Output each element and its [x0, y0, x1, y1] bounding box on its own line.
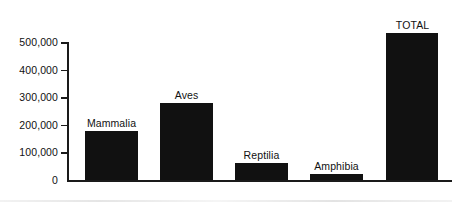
plot-area: 500,000 400,000 300,000 200,000 100,000 … [0, 0, 452, 202]
bar-label-amphibia: Amphibia [304, 160, 369, 172]
bar-total [386, 33, 438, 180]
scan-edge-artifact [0, 200, 452, 202]
y-axis-tick-label: 100,000 [2, 146, 58, 158]
y-axis-tick-label: 300,000 [2, 91, 58, 103]
bar-label-aves: Aves [154, 89, 219, 101]
bar-label-total: TOTAL [380, 19, 445, 31]
bar-chart-figure: 500,000 400,000 300,000 200,000 100,000 … [0, 0, 452, 202]
bar-mammalia [85, 131, 138, 180]
y-axis-tick-label: 0 [2, 174, 58, 186]
y-axis-tick-label: 400,000 [2, 64, 58, 76]
bar-label-mammalia: Mammalia [79, 117, 144, 129]
bar-label-reptilia: Reptilia [229, 149, 294, 161]
y-axis-tick-label: 500,000 [2, 36, 58, 48]
y-axis-tick-label: 200,000 [2, 119, 58, 131]
x-axis-baseline [67, 180, 452, 182]
bar-reptilia [235, 163, 288, 180]
y-axis-line [67, 42, 69, 181]
bar-amphibia [310, 174, 363, 180]
bar-aves [160, 103, 213, 180]
